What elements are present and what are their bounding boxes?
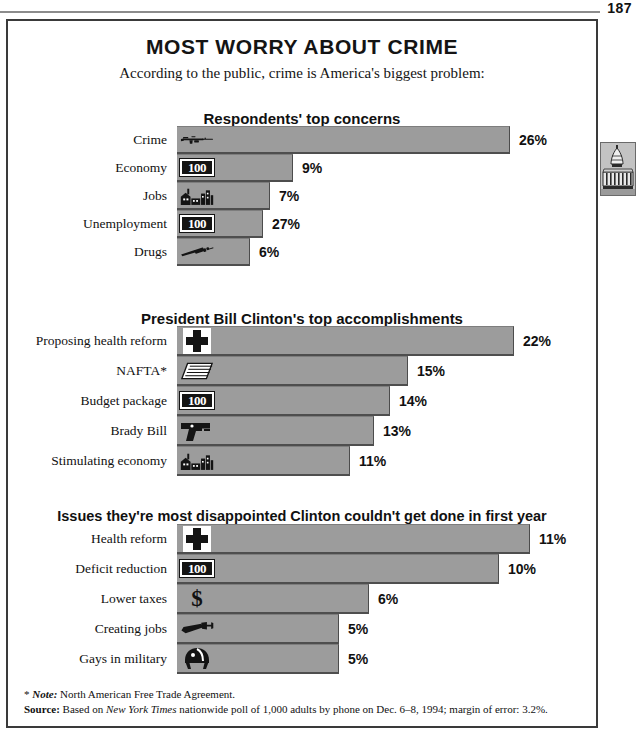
page-title: MOST WORRY ABOUT CRIME <box>8 35 596 59</box>
money-note-icon: 100 <box>180 390 214 412</box>
bar-label: Brady Bill <box>7 416 167 446</box>
bar-fill <box>177 326 514 354</box>
bar-fill: $ <box>177 584 369 612</box>
bar-value: 7% <box>279 188 299 204</box>
money-note-icon: 100 <box>180 157 214 179</box>
bar <box>177 416 374 444</box>
bar-value: 13% <box>383 423 411 439</box>
bar-row: Stimulating economy11% <box>8 446 596 476</box>
factory-icon <box>180 449 214 473</box>
bar-row: NAFTA*15% <box>8 356 596 386</box>
bar <box>177 524 530 552</box>
bar-fill <box>177 644 339 672</box>
chart-frame: MOST WORRY ABOUT CRIME According to the … <box>6 19 598 728</box>
section-heading-2: President Bill Clinton's top accomplishm… <box>8 310 596 327</box>
bar-label: Lower taxes <box>7 584 167 614</box>
bar-row: Health reform11% <box>8 524 596 554</box>
bar-row: Unemployment10027% <box>8 210 596 238</box>
rifle-icon <box>180 130 214 150</box>
bar-value: 15% <box>417 363 445 379</box>
bar-value: 6% <box>378 591 398 607</box>
bar-label: Jobs <box>7 182 167 210</box>
bar-label: Economy <box>7 154 167 182</box>
bar-fill <box>177 614 339 642</box>
syringe-icon <box>180 243 214 261</box>
bar-row: Jobs7% <box>8 182 596 210</box>
bar-row: Budget package10014% <box>8 386 596 416</box>
bar: $ <box>177 584 369 612</box>
footnote-source-prefix: Based on <box>63 703 104 715</box>
medical-cross-icon <box>180 330 214 352</box>
footnote-marker: * <box>24 688 30 700</box>
bar-label: Proposing health reform <box>7 326 167 356</box>
bar-value: 27% <box>272 216 300 232</box>
bar-label: Drugs <box>7 238 167 266</box>
bar-label: Unemployment <box>7 210 167 238</box>
factory-icon <box>180 450 214 472</box>
bar <box>177 446 350 474</box>
bar-fill: 100 <box>177 554 499 582</box>
bar-fill: 100 <box>177 154 293 180</box>
dollar-sign-icon: $ <box>191 587 203 610</box>
section-heading-1: Respondents' top concerns <box>8 110 596 127</box>
footnote-note-text: North American Free Trade Agreement. <box>60 688 235 700</box>
footnote-note: * Note: North American Free Trade Agreem… <box>24 687 548 702</box>
bar-fill <box>177 182 270 208</box>
footnote-note-label: Note: <box>32 688 57 700</box>
bar-label: Creating jobs <box>7 614 167 644</box>
page-number: 187 <box>607 0 632 16</box>
chart-clinton-disappointments: Health reform11%Deficit reduction10010%L… <box>8 524 596 674</box>
bar-label: Health reform <box>7 524 167 554</box>
bar-row: Deficit reduction10010% <box>8 554 596 584</box>
money-note-icon: 100 <box>180 392 214 409</box>
bar-label: Crime <box>7 126 167 154</box>
footnote-source-suffix: nationwide poll of 1,000 adults by phone… <box>179 703 548 715</box>
money-note-icon: 100 <box>180 213 214 235</box>
bar-fill: 100 <box>177 210 263 236</box>
medical-cross-icon <box>180 528 214 550</box>
chart-clinton-top-accomplishments: Proposing health reform22%NAFTA*15%Budge… <box>8 326 596 476</box>
bar: 100 <box>177 210 263 236</box>
bar-fill <box>177 126 510 152</box>
bar-value: 22% <box>523 333 551 349</box>
page-header: 187 <box>0 0 636 20</box>
wrench-icon <box>180 618 214 640</box>
bar-fill <box>177 238 250 264</box>
bar-label: NAFTA* <box>7 356 167 386</box>
dollar-sign-icon: $ <box>180 588 214 610</box>
bar-row: Economy1009% <box>8 154 596 182</box>
wrench-icon <box>180 619 214 639</box>
bar <box>177 126 510 152</box>
bar-value: 11% <box>359 453 386 469</box>
bar-value: 11% <box>539 531 566 547</box>
bar-row: Drugs6% <box>8 238 596 266</box>
bar <box>177 644 339 672</box>
section-heading-3: Issues they're most disappointed Clinton… <box>8 508 596 524</box>
bar-row: Proposing health reform22% <box>8 326 596 356</box>
bar-label: Budget package <box>7 386 167 416</box>
bar-label: Gays in military <box>7 644 167 674</box>
bar-fill <box>177 416 374 444</box>
money-note-icon: 100 <box>180 215 214 232</box>
capitol-building-icon <box>600 142 636 196</box>
money-note-icon: 100 <box>180 558 214 580</box>
paper-stack-icon <box>180 359 214 383</box>
bar-value: 6% <box>259 244 279 260</box>
bar-row: Lower taxes$6% <box>8 584 596 614</box>
bar-row: Gays in military5% <box>8 644 596 674</box>
factory-icon <box>180 184 214 208</box>
military-helmet-icon <box>182 647 212 671</box>
footnote-source-label: Source: <box>24 703 60 715</box>
bar-fill <box>177 446 350 474</box>
bar-fill <box>177 356 408 384</box>
rifle-icon <box>180 129 214 151</box>
bar-row: Crime26% <box>8 126 596 154</box>
factory-icon <box>180 185 214 207</box>
bar-value: 14% <box>399 393 427 409</box>
bar-value: 9% <box>302 160 322 176</box>
bar-fill: 100 <box>177 386 390 414</box>
page-subtitle: According to the public, crime is Americ… <box>8 65 596 82</box>
bar-value: 5% <box>348 651 368 667</box>
money-note-icon: 100 <box>180 159 214 176</box>
footnote-source-italic: New York Times <box>106 703 177 715</box>
